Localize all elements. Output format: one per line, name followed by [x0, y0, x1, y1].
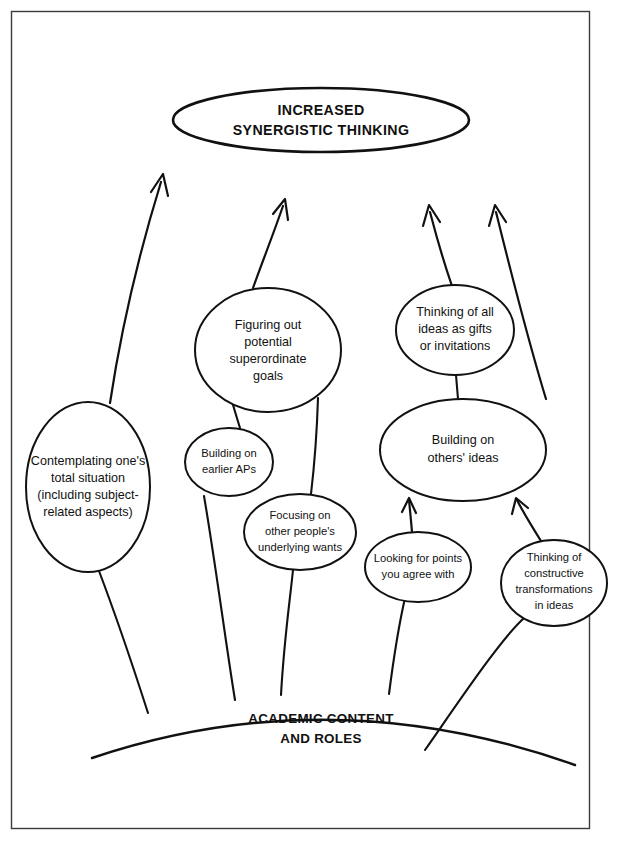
contemplating-line3: (including subject- [37, 488, 139, 502]
contemplating-line4: related aspects) [43, 505, 133, 519]
synergistic-thinking-diagram: ACADEMIC CONTENT AND ROLES Contemplatin [0, 0, 637, 841]
goals-line3: superordinate [229, 352, 306, 366]
gifts-line1: Thinking of all [416, 305, 494, 319]
goals-line4: goals [253, 369, 283, 383]
contemplating-line2: total situation [51, 471, 125, 485]
arrow-line-constructive-to-building [517, 500, 541, 541]
points-line1: Looking for points [374, 552, 463, 564]
gifts-line3: or invitations [420, 339, 491, 353]
node-thinking-of-constructive-transformations[interactable]: Thinking of constructive transformations… [501, 540, 607, 626]
stem-to-building-on-earlier-aps [204, 496, 235, 700]
node-contemplating-total-situation[interactable]: Contemplating one's total situation (inc… [26, 402, 150, 572]
diagram-root: ACADEMIC CONTENT AND ROLES Contemplatin [0, 0, 637, 841]
node-increased-synergistic-thinking[interactable]: INCREASED SYNERGISTIC THINKING [173, 88, 469, 152]
node-focusing-on-underlying-wants[interactable]: Focusing on other people's underlying wa… [244, 494, 356, 570]
contemplating-line1: Contemplating one's [31, 454, 145, 468]
constructive-line1: Thinking of [527, 551, 583, 563]
arrow-head-goals-to-top [273, 199, 288, 220]
node-looking-for-points-you-agree-with[interactable]: Looking for points you agree with [365, 532, 471, 602]
node-ellipse-increased-synergistic-thinking[interactable] [173, 88, 469, 152]
node-ellipse-contemplating[interactable] [26, 402, 150, 572]
constructive-line3: transformations [515, 583, 593, 595]
arrow-line-goals-to-top [253, 206, 283, 288]
points-line2: you agree with [382, 568, 455, 580]
ground-label-line1: ACADEMIC CONTENT [248, 711, 394, 726]
arrow-line-contemplating-to-top [110, 182, 161, 403]
gifts-line2: ideas as gifts [418, 322, 492, 336]
wants-line3: underlying wants [258, 541, 342, 553]
node-figuring-out-superordinate-goals[interactable]: Figuring out potential superordinate goa… [195, 288, 341, 412]
stem-to-thinking-constructive [425, 618, 524, 750]
goals-line2: potential [244, 335, 292, 349]
node-building-on-others-ideas[interactable]: Building on others' ideas [380, 399, 546, 501]
node-ellipse-building-on-others[interactable] [380, 399, 546, 501]
constructive-line4: in ideas [535, 599, 574, 611]
top-node-line2: SYNERGISTIC THINKING [233, 122, 410, 138]
connector-focusing-to-goals [311, 398, 318, 494]
node-building-on-earlier-aps[interactable]: Building on earlier APs [185, 428, 273, 496]
wants-line1: Focusing on [270, 509, 331, 521]
ground-label-line2: AND ROLES [280, 731, 362, 746]
connector-gifts-to-building-others [456, 375, 458, 399]
stem-to-looking-for-points [389, 598, 405, 694]
stem-to-focusing-on-wants [281, 570, 293, 695]
others-line2: others' ideas [427, 451, 498, 465]
stem-to-contemplating [99, 571, 148, 713]
wants-line2: other people's [265, 525, 335, 537]
constructive-line2: constructive [524, 567, 584, 579]
node-ellipse-figuring-out-goals[interactable] [195, 288, 341, 412]
node-thinking-of-ideas-as-gifts[interactable]: Thinking of all ideas as gifts or invita… [396, 285, 514, 375]
arrow-line-gifts-to-top [430, 212, 452, 286]
top-node-line1: INCREASED [277, 102, 364, 118]
goals-line1: Figuring out [235, 318, 302, 332]
earlier-aps-line2: earlier APs [202, 463, 257, 475]
earlier-aps-line1: Building on [201, 447, 256, 459]
others-line1: Building on [432, 433, 494, 447]
